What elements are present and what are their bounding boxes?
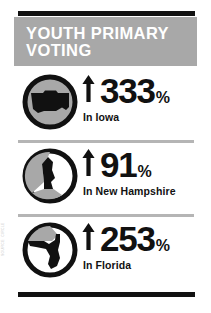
row-separator — [18, 214, 194, 217]
stat-block: 253 % In Florida — [82, 220, 197, 282]
header-banner: YOUTH PRIMARY VOTING — [14, 17, 197, 66]
poster-content: YOUTH PRIMARY VOTING 333 % — [14, 0, 197, 313]
stat-caption: In Florida — [83, 259, 131, 271]
stat-caption: In New Hampshire — [83, 185, 176, 197]
stat-value-line: 253 % — [82, 222, 170, 262]
row-separator — [18, 140, 194, 143]
new-hampshire-map-icon — [22, 148, 78, 204]
percent-sign: % — [156, 229, 170, 263]
florida-map-icon — [22, 222, 78, 278]
up-arrow-icon — [82, 149, 95, 176]
up-arrow-icon — [82, 223, 95, 250]
bottom-rule — [18, 292, 195, 297]
stat-block: 333 % In Iowa — [82, 72, 197, 134]
stat-block: 91 % In New Hampshire — [82, 146, 197, 208]
stat-row: 91 % In New Hampshire — [14, 146, 197, 208]
percent-sign: % — [138, 155, 152, 189]
stat-row: 253 % In Florida — [14, 220, 197, 282]
percent-sign: % — [156, 81, 170, 115]
stat-row: 333 % In Iowa — [14, 72, 197, 134]
top-rule — [18, 11, 195, 16]
stat-value-line: 333 % — [82, 74, 170, 114]
stat-value: 253 — [100, 222, 155, 256]
page-title: YOUTH PRIMARY VOTING — [26, 25, 192, 59]
up-arrow-icon — [82, 75, 95, 102]
stat-caption: In Iowa — [83, 111, 119, 123]
source-credit: SOURCE: CIRCLE — [1, 200, 5, 256]
infographic-poster: SOURCE: CIRCLE YOUTH PRIMARY VOTING — [0, 0, 211, 313]
iowa-map-icon — [22, 74, 78, 130]
stat-value-line: 91 % — [82, 148, 152, 188]
stat-value: 91 — [100, 148, 137, 182]
stat-value: 333 — [100, 74, 155, 108]
